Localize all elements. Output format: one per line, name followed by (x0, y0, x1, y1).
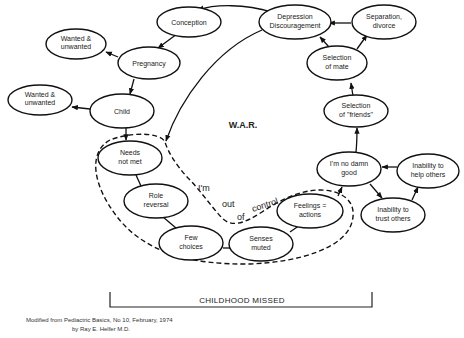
node-label: Inability to (412, 162, 444, 170)
node-label: Wanted & (61, 35, 92, 42)
node-label: good (341, 169, 357, 177)
node-label: Wanted & (25, 91, 56, 98)
node-selection-of-mate: Selection of mate (307, 46, 367, 80)
node-label: choices (179, 243, 203, 250)
node-label: Few (184, 234, 198, 241)
node-im-no-damn-good: I'm no damn good (317, 152, 381, 186)
edge-conception-pregnancy (158, 34, 177, 48)
node-few-choices: Few choices (159, 226, 223, 260)
caption-source: Modified from Pediactric Basics, No 10, … (26, 317, 173, 323)
node-label: Needs (120, 149, 141, 156)
node-label: reversal (144, 201, 169, 208)
node-child: Child (90, 94, 154, 128)
node-wanted-unwanted-2: Wanted & unwanted (8, 85, 72, 115)
node-label: Pregnancy (132, 60, 166, 68)
node-label: I'm no damn (330, 160, 368, 167)
war-cycle-diagram: Conception Depression Discouragement Sep… (0, 0, 464, 338)
childhood-missed-label: CHILDHOOD MISSED (199, 296, 285, 305)
annotation-out: out (222, 199, 235, 209)
node-label: Discouragement (270, 22, 321, 30)
edge-nodamn-friends (356, 128, 357, 152)
edge-pregnancy-child (130, 79, 134, 94)
node-label: Conception (171, 19, 207, 27)
node-separation: Separation, divorce (352, 5, 416, 39)
edge-mate-depression (320, 37, 329, 47)
node-label: Separation, (366, 13, 402, 21)
node-selection-of-friends: Selection of "friends" (324, 95, 388, 127)
node-label: muted (251, 244, 271, 251)
node-label: unwanted (25, 99, 55, 106)
node-label: of mate (325, 63, 348, 70)
war-label: W.A.R. (229, 120, 258, 130)
node-label: Role (149, 192, 164, 199)
node-label: Selection (342, 102, 371, 109)
node-label: not met (118, 158, 141, 165)
edge-feelings-nodamn (338, 187, 342, 196)
node-label: trust others (375, 215, 411, 222)
caption-author: by Ray E. Helfer M.D. (72, 326, 130, 332)
annotation-control: control (251, 196, 280, 214)
node-pregnancy: Pregnancy (118, 47, 180, 79)
node-senses-muted: Senses muted (229, 227, 293, 261)
node-label: unwanted (61, 43, 91, 50)
node-label: help others (411, 171, 446, 179)
node-inability-trust-others: Inability to trust others (361, 198, 425, 232)
edge-pregnancy-wanted (106, 52, 118, 57)
annotation-im: I'm (198, 183, 210, 193)
node-label: Feelings = (294, 202, 327, 210)
node-label: Senses (249, 235, 273, 242)
edge-friends-mate (351, 83, 353, 96)
node-label: divorce (373, 22, 396, 29)
node-label: actions (299, 211, 322, 218)
edge-mate-separation (357, 35, 367, 49)
node-role-reversal: Role reversal (124, 184, 188, 218)
node-depression: Depression Discouragement (259, 5, 331, 39)
node-label: of "friends" (339, 111, 373, 118)
node-inability-help-others: Inability to help others (397, 154, 459, 188)
edge-needs-role (136, 175, 141, 186)
annotation-of: of (237, 212, 245, 222)
edge-role-few (163, 217, 176, 228)
node-conception: Conception (157, 7, 221, 37)
node-label: Child (114, 108, 130, 115)
node-label: Selection (323, 54, 352, 61)
node-wanted-unwanted-1: Wanted & unwanted (46, 29, 106, 59)
node-needs-not-met: Needs not met (98, 141, 162, 175)
edge-trust-help (412, 187, 418, 200)
node-label: Depression (277, 13, 313, 21)
edge-child-wanted (72, 107, 90, 109)
edge-nodamn-trust (370, 184, 382, 198)
node-label: Inability to (377, 206, 409, 214)
node-feelings-actions: Feelings = actions (277, 194, 343, 228)
